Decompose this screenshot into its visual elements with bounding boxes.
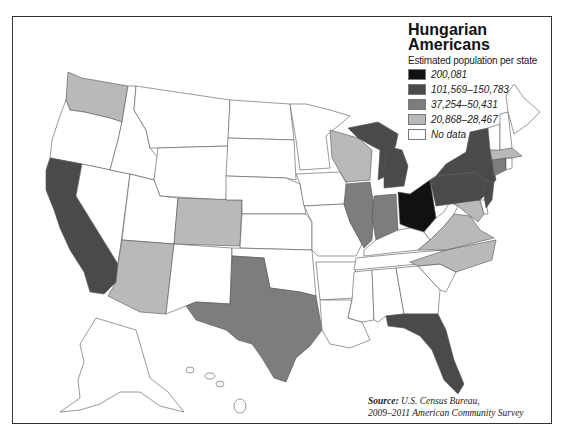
legend-swatch — [408, 99, 426, 110]
state-kansas — [240, 214, 312, 250]
state-north-dakota — [228, 100, 294, 140]
legend-item: 20,868–28,467 — [408, 112, 558, 126]
source-line1: U.S. Census Bureau, — [399, 396, 480, 406]
source-prefix: Source: — [368, 396, 399, 406]
source-note: Source: U.S. Census Bureau, 2009–2011 Am… — [368, 395, 524, 419]
legend-item: 101,569–150,783 — [408, 82, 558, 96]
state-hawaii — [186, 367, 246, 413]
legend-label: 37,254–50,431 — [431, 99, 498, 110]
legend-item: 37,254–50,431 — [408, 97, 558, 111]
state-colorado — [174, 198, 242, 246]
state-connecticut — [492, 158, 506, 176]
legend-swatch — [408, 114, 426, 125]
legend-label: 20,868–28,467 — [431, 114, 498, 125]
legend-swatch — [408, 69, 426, 80]
legend-subtitle: Estimated population per state — [408, 55, 558, 66]
state-wyoming — [154, 146, 228, 200]
state-michigan-lower — [384, 146, 408, 188]
state-iowa — [296, 172, 348, 206]
state-new-jersey — [484, 180, 494, 208]
legend-item: 200,081 — [408, 67, 558, 81]
legend-label: No data — [431, 129, 466, 140]
legend-swatch — [408, 84, 426, 95]
legend-label: 200,081 — [431, 69, 467, 80]
legend-swatch — [408, 129, 426, 140]
map-legend: Hungarian Americans Estimated population… — [408, 22, 558, 141]
source-line2: 2009–2011 American Community Survey — [368, 407, 524, 419]
state-south-dakota — [226, 138, 296, 180]
state-alaska — [60, 318, 184, 412]
legend-item: No data — [408, 127, 558, 141]
state-florida — [386, 314, 464, 394]
legend-title-line1: Hungarian — [408, 22, 558, 37]
legend-label: 101,569–150,783 — [431, 84, 509, 95]
legend-title-line2: Americans — [408, 37, 558, 52]
state-arkansas — [316, 262, 356, 300]
state-montana — [134, 86, 230, 148]
state-rhode-island — [506, 158, 512, 170]
